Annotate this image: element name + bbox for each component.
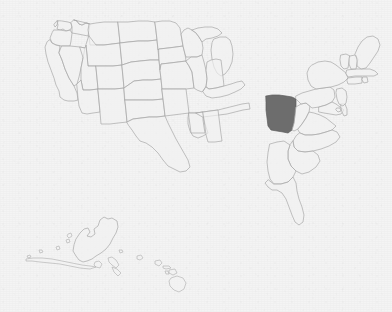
- alaska-island-aleutian-1: [67, 233, 72, 238]
- alaska-island-aleutian-4: [39, 250, 43, 253]
- state-maine[interactable]: [355, 36, 380, 69]
- state-north-dakota[interactable]: [118, 21, 157, 43]
- state-new-mexico[interactable]: [98, 88, 127, 124]
- state-florida[interactable]: [265, 177, 304, 225]
- alaska-island-southeast-2: [112, 267, 121, 276]
- state-massachusetts[interactable]: [346, 69, 378, 77]
- state-texas[interactable]: [127, 116, 190, 172]
- alaska-island-aleutian-2: [66, 239, 70, 243]
- state-connecticut[interactable]: [347, 77, 362, 84]
- contiguous-states-layer: [45, 20, 380, 225]
- alaska-island-pribilof: [119, 250, 123, 253]
- state-colorado[interactable]: [96, 65, 124, 89]
- hawaii-island-oahu: [155, 260, 162, 266]
- state-washington[interactable]: [57, 21, 72, 31]
- hawaii-island-kauai: [137, 255, 143, 260]
- state-rhode-island[interactable]: [362, 77, 368, 83]
- state-indiana[interactable]: [206, 59, 224, 89]
- state-vermont[interactable]: [340, 54, 350, 69]
- us-states-map[interactable]: [0, 0, 392, 312]
- us-map-figure: Map of the United States with Ohio shade…: [0, 0, 392, 312]
- hawaii-island-maui: [169, 269, 177, 275]
- hawaii-inset-layer: [137, 255, 186, 292]
- state-alaska[interactable]: [73, 217, 118, 262]
- alaska-island-southeast-1: [108, 257, 119, 268]
- hawaii-island-hawaii: [169, 276, 186, 292]
- hawaii-island-lanai: [165, 271, 169, 274]
- alaska-inset-layer: [26, 217, 123, 276]
- alaska-island-aleutian-5: [27, 255, 31, 258]
- state-ohio-selected[interactable]: [266, 95, 296, 133]
- state-new-jersey[interactable]: [336, 88, 347, 106]
- alaska-island-aleutian-3: [56, 246, 60, 250]
- state-minnesota[interactable]: [155, 21, 183, 50]
- hawaii-island-molokai: [163, 266, 171, 269]
- state-arkansas[interactable]: [162, 89, 189, 116]
